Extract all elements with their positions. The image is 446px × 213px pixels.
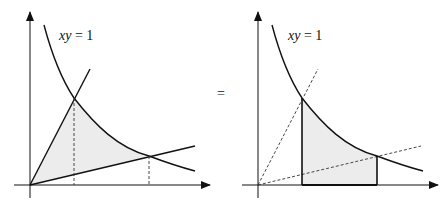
left-curve-label: xy = 1	[58, 28, 93, 43]
right-curve-label: xy = 1	[287, 28, 322, 43]
left-shaded-region	[30, 98, 149, 185]
left-diagram: xy = 1	[14, 12, 210, 198]
right-diagram: xy = 1	[242, 12, 438, 198]
equals-sign: =	[217, 86, 225, 101]
